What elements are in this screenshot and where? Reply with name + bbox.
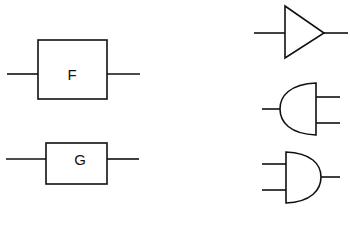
reverse-and-body — [280, 83, 316, 135]
and-gate-body — [286, 152, 321, 203]
and-gate-symbol — [262, 152, 340, 203]
block-g: G — [6, 143, 139, 184]
block-f: F — [7, 40, 140, 99]
block-g-label: G — [74, 151, 86, 168]
block-f-label: F — [67, 66, 76, 83]
buffer-triangle — [285, 6, 324, 58]
diagram-canvas: F G — [0, 0, 350, 226]
reverse-and-symbol — [262, 83, 340, 135]
buffer-symbol — [254, 6, 348, 58]
